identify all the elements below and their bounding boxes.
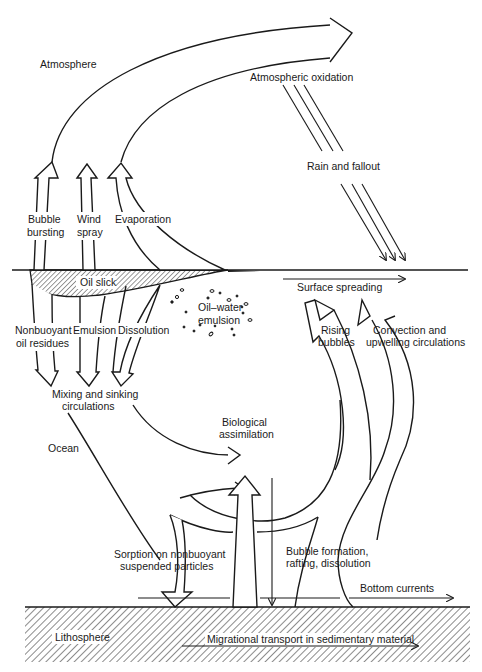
central-upward-arrow bbox=[229, 476, 260, 607]
wind-spray-label-1: Wind bbox=[77, 213, 101, 225]
evaporation-label: Evaporation bbox=[115, 213, 171, 225]
sorption-label-1: Sorption on nonbuoyant bbox=[114, 548, 226, 560]
rain-fallout-arrows bbox=[341, 184, 405, 260]
convection-label-2: upwelling circulations bbox=[366, 336, 465, 348]
lithosphere-label: Lithosphere bbox=[55, 631, 110, 643]
oil-slick-shape bbox=[30, 270, 228, 297]
nonbuoyant-label-1: Nonbuoyant bbox=[15, 324, 72, 336]
lithosphere-layer: Lithosphere Migrational transport in sed… bbox=[25, 607, 470, 662]
oil-water-label-1: Oil–water bbox=[198, 301, 243, 313]
bubble-formation-label-2: rafting, dissolution bbox=[286, 557, 371, 569]
atmosphere-label: Atmosphere bbox=[40, 58, 97, 70]
emulsion-arrow bbox=[77, 296, 105, 386]
rising-bubbles-label-1: Rising bbox=[321, 324, 350, 336]
mixing-label-1: Mixing and sinking bbox=[52, 388, 139, 400]
oil-slick-label: Oil slick bbox=[80, 276, 117, 288]
convection-label-1: Convection and bbox=[373, 324, 446, 336]
ocean-label: Ocean bbox=[48, 442, 79, 454]
biological-label-2: assimilation bbox=[219, 428, 274, 440]
emulsion-label: Emulsion bbox=[73, 324, 116, 336]
mixing-to-sorption-curve bbox=[68, 413, 160, 560]
bottom-currents-label: Bottom currents bbox=[360, 582, 434, 594]
mixing-label-2: circulations bbox=[62, 400, 115, 412]
sorption-label-2: suspended particles bbox=[120, 560, 213, 572]
migrational-transport-label: Migrational transport in sedimentary mat… bbox=[207, 633, 414, 645]
surface-spreading-label: Surface spreading bbox=[297, 281, 382, 293]
oil-water-label-2: emulsion bbox=[198, 314, 240, 326]
atmospheric-oxidation-lines bbox=[283, 85, 343, 151]
dissolution-label: Dissolution bbox=[118, 324, 170, 336]
bubble-bursting-label-1: Bubble bbox=[28, 213, 61, 225]
biological-label-1: Biological bbox=[222, 416, 267, 428]
rising-bubbles-label-2: bubbles bbox=[318, 336, 355, 348]
atmospheric-oxidation-label: Atmospheric oxidation bbox=[250, 71, 353, 83]
rain-fallout-label: Rain and fallout bbox=[307, 160, 380, 172]
bubble-formation-label-1: Bubble formation, bbox=[286, 545, 368, 557]
oil-fate-diagram: Lithosphere Migrational transport in sed… bbox=[0, 0, 482, 672]
wind-spray-label-2: spray bbox=[77, 226, 103, 238]
nonbuoyant-label-2: oil residues bbox=[16, 337, 69, 349]
bubble-bursting-label-2: bursting bbox=[27, 226, 65, 238]
